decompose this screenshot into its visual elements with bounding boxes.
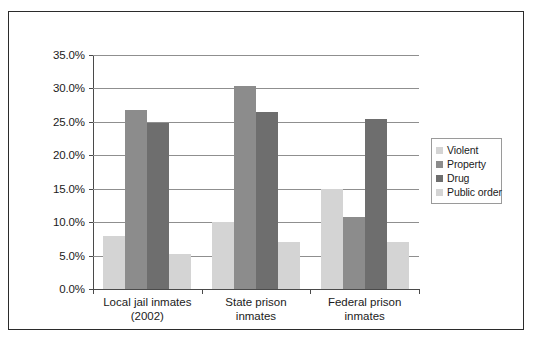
- bar-property: [234, 86, 256, 289]
- x-axis-tick-label: Federal prisoninmates: [310, 295, 419, 323]
- legend-label: Violent: [447, 144, 478, 156]
- bar-group: [310, 55, 419, 289]
- y-axis-tick-label: 35.0%: [53, 49, 85, 61]
- x-axis-tick-label-line: Local jail inmates: [93, 295, 202, 309]
- y-axis-tick-label: 20.0%: [53, 149, 85, 161]
- y-axis-tick-labels: 35.0%30.0%25.0%20.0%15.0%10.0%5.0%0.0%: [9, 55, 85, 289]
- y-axis-tick-label: 25.0%: [53, 116, 85, 128]
- bar-group: [202, 55, 311, 289]
- x-axis-tick-label: State prisoninmates: [202, 295, 311, 323]
- y-axis-tick-label: 0.0%: [59, 283, 85, 295]
- chart-legend: ViolentPropertyDrugPublic order: [431, 138, 502, 204]
- legend-item[interactable]: Drug: [436, 171, 497, 185]
- x-axis-tick-mark: [93, 289, 94, 294]
- legend-swatch-violent: [436, 147, 443, 154]
- bar-violent: [321, 189, 343, 289]
- legend-item[interactable]: Public order: [436, 185, 497, 199]
- x-axis-tick-label-line: inmates: [202, 309, 311, 323]
- x-axis-tick-mark: [202, 289, 203, 294]
- x-axis-tick-mark: [419, 289, 420, 294]
- legend-label: Drug: [447, 172, 469, 184]
- legend-label: Property: [447, 158, 486, 170]
- x-axis-tick-label-line: inmates: [310, 309, 419, 323]
- bar-drug: [147, 123, 169, 289]
- bar-drug: [256, 112, 278, 289]
- bar-property: [125, 110, 147, 289]
- x-axis-tick-label-line: Federal prison: [310, 295, 419, 309]
- bar-publicorder: [387, 242, 409, 289]
- legend-swatch-drug: [436, 175, 443, 182]
- bar-property: [343, 217, 365, 289]
- y-axis-tick-label: 30.0%: [53, 82, 85, 94]
- legend-swatch-property: [436, 161, 443, 168]
- y-axis-tick-label: 10.0%: [53, 216, 85, 228]
- bar-publicorder: [278, 242, 300, 289]
- x-axis-tick-mark: [310, 289, 311, 294]
- x-axis-tick-label-line: (2002): [93, 309, 202, 323]
- bar-violent: [103, 236, 125, 289]
- x-axis-tick-label-line: State prison: [202, 295, 311, 309]
- plot-area: [93, 55, 419, 289]
- y-axis-tick-label: 5.0%: [59, 250, 85, 262]
- chart-frame: 35.0%30.0%25.0%20.0%15.0%10.0%5.0%0.0% V…: [8, 11, 524, 330]
- bar-group: [93, 55, 202, 289]
- y-axis-tick-label: 15.0%: [53, 183, 85, 195]
- bar-violent: [212, 222, 234, 289]
- legend-swatch-publicorder: [436, 189, 443, 196]
- x-axis-tick-label: Local jail inmates(2002): [93, 295, 202, 323]
- gridline: [93, 289, 419, 290]
- legend-item[interactable]: Violent: [436, 143, 497, 157]
- legend-label: Public order: [447, 186, 502, 198]
- bar-publicorder: [169, 254, 191, 289]
- legend-item[interactable]: Property: [436, 157, 497, 171]
- bar-drug: [365, 119, 387, 289]
